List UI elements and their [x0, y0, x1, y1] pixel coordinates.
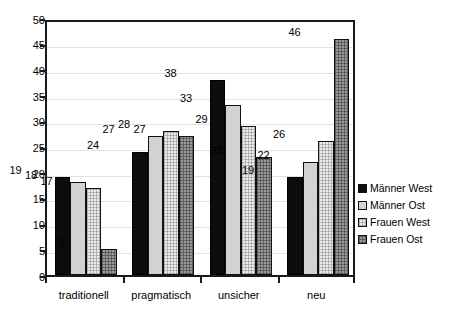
bar-value-label: 17 [35, 176, 59, 187]
legend-swatch-icon [358, 201, 367, 210]
legend-swatch-icon [358, 218, 367, 227]
bar [86, 188, 102, 275]
bar [132, 152, 148, 275]
legend-item: Männer West [358, 182, 456, 195]
bar-value-label: 22 [252, 150, 276, 161]
x-tick-mark [278, 277, 280, 283]
x-tick-mark [45, 277, 47, 283]
bar-value-label: 24 [81, 140, 105, 151]
bar-value-label: 29 [190, 114, 214, 125]
bar [70, 182, 86, 275]
x-category-label: neu [278, 289, 356, 301]
bar-value-label: 27 [128, 124, 152, 135]
legend-label: Frauen West [370, 217, 430, 228]
x-category-label: unsicher [200, 289, 278, 301]
bar-value-label: 46 [283, 27, 307, 38]
legend-label: Männer West [370, 183, 432, 194]
bar-group [287, 22, 349, 275]
bar [303, 162, 319, 275]
bar-chart: 05101520253035404550 traditionellpragmat… [0, 0, 458, 313]
x-category-label: traditionell [45, 289, 123, 301]
bar [55, 177, 71, 275]
bar [163, 131, 179, 275]
x-tick-mark [123, 277, 125, 283]
bar [101, 249, 117, 275]
bar-value-label: 23 [205, 145, 229, 156]
x-category-label: pragmatisch [123, 289, 201, 301]
x-tick-mark [200, 277, 202, 283]
bar-value-label: 26 [267, 129, 291, 140]
bar-value-label: 5 [50, 237, 74, 248]
legend-item: Männer Ost [358, 199, 456, 212]
bar [210, 80, 226, 275]
legend-label: Männer Ost [370, 200, 425, 211]
bar-group [132, 22, 194, 275]
x-tick-mark [353, 277, 355, 283]
bar [318, 141, 334, 275]
bar-value-label: 33 [174, 93, 198, 104]
y-axis: 05101520253035404550 [0, 0, 45, 313]
legend-label: Frauen Ost [370, 234, 423, 245]
bar [148, 136, 164, 275]
bar [179, 136, 195, 275]
bar-value-label: 38 [159, 68, 183, 79]
chart-legend: Männer WestMänner OstFrauen WestFrauen O… [358, 182, 456, 250]
bar-value-label: 19 [236, 165, 260, 176]
legend-swatch-icon [358, 184, 367, 193]
legend-swatch-icon [358, 235, 367, 244]
legend-item: Frauen Ost [358, 233, 456, 246]
x-axis: traditionellpragmatischunsicherneu [45, 277, 355, 313]
bar [225, 105, 241, 275]
bar [334, 39, 350, 275]
legend-item: Frauen West [358, 216, 456, 229]
bar [287, 177, 303, 275]
bar [241, 126, 257, 275]
